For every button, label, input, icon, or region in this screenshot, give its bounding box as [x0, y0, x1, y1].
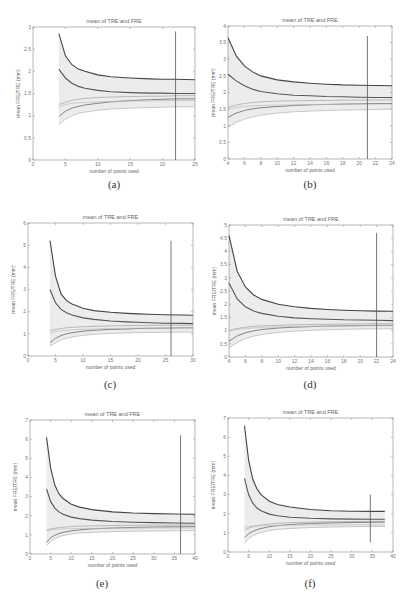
y-tick-label: 4 — [223, 472, 226, 478]
chart-f-svg: 051015202530354001234567mean of TRE and … — [0, 0, 409, 601]
x-tick-label: 35 — [370, 553, 376, 559]
x-tick-label: 25 — [328, 553, 334, 559]
y-tick-label: 5 — [223, 453, 226, 459]
y-axis-label: mean FRE/TRE (mm) — [210, 461, 216, 510]
x-tick-label: 10 — [266, 553, 272, 559]
y-tick-label: 2 — [223, 511, 226, 517]
chart-title: mean of TRE and FRE — [283, 409, 339, 415]
chart-panel-f: 051015202530354001234567mean of TRE and … — [0, 0, 409, 601]
x-axis-label: number of points used — [286, 560, 336, 566]
caption-f: (f) — [290, 577, 330, 589]
x-tick-label: 0 — [227, 553, 230, 559]
y-tick-label: 0 — [223, 549, 226, 555]
y-tick-label: 7 — [223, 415, 226, 421]
x-tick-label: 40 — [390, 553, 396, 559]
x-tick-label: 30 — [349, 553, 355, 559]
y-tick-label: 3 — [223, 491, 226, 497]
y-tick-label: 1 — [223, 530, 226, 536]
x-tick-label: 5 — [247, 553, 250, 559]
y-tick-label: 6 — [223, 434, 226, 440]
x-tick-label: 15 — [287, 553, 293, 559]
x-tick-label: 20 — [308, 553, 314, 559]
series-line — [245, 426, 385, 512]
